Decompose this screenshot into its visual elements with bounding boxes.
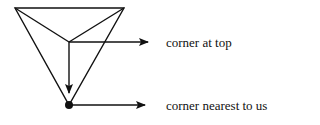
label-corner-nearest: corner nearest to us xyxy=(166,99,267,112)
nearest-corner-dot xyxy=(65,101,73,109)
label-corner-at-top: corner at top xyxy=(166,36,232,49)
